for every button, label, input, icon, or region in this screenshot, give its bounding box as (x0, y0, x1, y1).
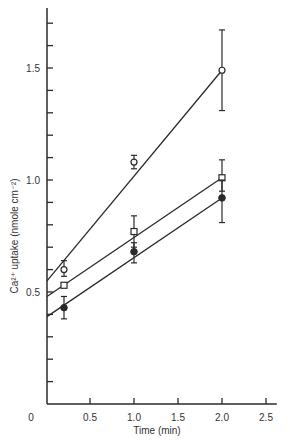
chart: 0.51.01.50.51.01.52.02.5 Time (min) Ca²⁺… (0, 0, 290, 442)
x-axis-title: Time (min) (133, 425, 180, 436)
y-axis-title: Ca²⁺ uptake (nmole cm⁻²) (9, 178, 20, 293)
open-circle-marker (219, 67, 225, 73)
open-circle-marker (131, 159, 137, 165)
open-square-marker (131, 229, 137, 235)
origin-label: 0 (28, 412, 34, 423)
y-tick-label: 1.0 (26, 175, 40, 186)
series-open-square (47, 160, 225, 297)
x-tick-label: 1.0 (127, 412, 141, 423)
filled-circle-marker (61, 304, 68, 311)
y-tick-label: 1.5 (26, 63, 40, 74)
filled-circle-marker (131, 248, 138, 255)
x-tick-label: 0.5 (83, 412, 97, 423)
x-tick-label: 1.5 (171, 412, 185, 423)
open-circle-marker (61, 267, 67, 273)
open-square-marker (61, 282, 67, 288)
y-tick-label: 0.5 (26, 287, 40, 298)
filled-circle-marker (219, 195, 226, 202)
x-tick-label: 2.5 (259, 412, 273, 423)
series-layer (47, 30, 225, 319)
x-tick-label: 2.0 (215, 412, 229, 423)
axes: 0.51.01.50.51.01.52.02.5 (26, 8, 277, 423)
